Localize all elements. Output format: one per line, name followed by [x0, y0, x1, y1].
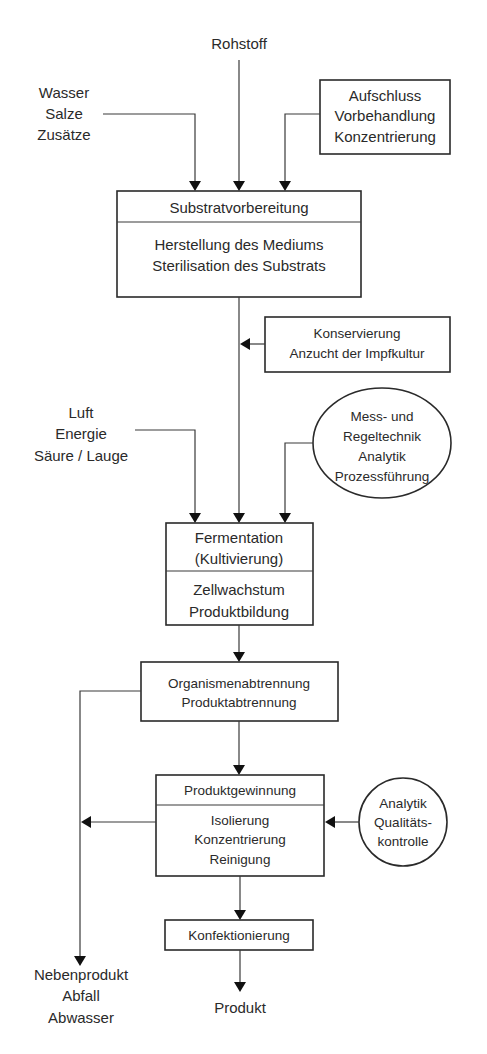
arrowhead-down-icon: [233, 652, 245, 662]
mess-connector: [285, 443, 313, 514]
arrowhead-down-icon: [189, 181, 201, 191]
svg-text:Zusätze: Zusätze: [37, 126, 90, 143]
produkt-label: Produkt: [214, 999, 267, 1016]
luft-energie-saeure-label: Luft Energie Säure / Lauge: [34, 404, 128, 464]
aufschluss-connector: [285, 114, 320, 182]
svg-text:Luft: Luft: [68, 404, 94, 421]
wasser-connector: [103, 114, 195, 182]
svg-text:Prozessführung: Prozessführung: [335, 469, 430, 484]
luft-connector: [135, 430, 195, 514]
svg-text:Aufschluss: Aufschluss: [349, 87, 422, 104]
substratvorbereitung-header: Substratvorbereitung: [169, 199, 308, 216]
svg-text:Mess- und: Mess- und: [350, 409, 413, 424]
svg-text:Energie: Energie: [55, 425, 107, 442]
arrowhead-down-icon: [279, 513, 291, 523]
svg-text:Qualitäts-: Qualitäts-: [374, 815, 432, 830]
svg-text:Abwasser: Abwasser: [48, 1009, 114, 1026]
svg-text:Salze: Salze: [45, 105, 83, 122]
bioprocess-flowchart: Rohstoff Wasser Salze Zusätze Aufschluss…: [0, 0, 487, 1054]
svg-text:Sterilisation des Substrats: Sterilisation des Substrats: [152, 257, 325, 274]
arrowhead-down-icon: [233, 181, 245, 191]
svg-text:Isolierung: Isolierung: [211, 813, 270, 828]
svg-text:(Kultivierung): (Kultivierung): [195, 550, 283, 567]
svg-text:Organismenabtrennung: Organismenabtrennung: [168, 676, 310, 691]
svg-text:Zellwachstum: Zellwachstum: [193, 581, 285, 598]
arrowhead-down-icon: [234, 910, 246, 920]
arrowhead-down-icon: [279, 181, 291, 191]
arrowhead-down-icon: [74, 956, 86, 966]
arrowhead-left-icon: [81, 816, 91, 828]
arrowhead-left-icon: [240, 338, 250, 350]
svg-text:Reinigung: Reinigung: [210, 852, 271, 867]
svg-text:Produktabtrennung: Produktabtrennung: [182, 695, 297, 710]
arrowhead-left-icon: [325, 816, 335, 828]
wasser-salze-zusaetze-label: Wasser Salze Zusätze: [37, 84, 90, 143]
arrowhead-down-icon: [234, 982, 246, 992]
svg-text:Produktbildung: Produktbildung: [189, 603, 289, 620]
svg-text:Konzentrierung: Konzentrierung: [194, 832, 286, 847]
svg-text:Konfektionierung: Konfektionierung: [188, 928, 289, 943]
svg-text:Analytik: Analytik: [358, 449, 406, 464]
svg-text:Säure / Lauge: Säure / Lauge: [34, 447, 128, 464]
arrowhead-down-icon: [233, 513, 245, 523]
svg-text:kontrolle: kontrolle: [377, 834, 428, 849]
svg-text:Analytik: Analytik: [379, 796, 427, 811]
svg-text:Konzentrierung: Konzentrierung: [334, 128, 436, 145]
svg-text:Konservierung: Konservierung: [313, 326, 400, 341]
svg-text:Vorbehandlung: Vorbehandlung: [335, 107, 436, 124]
svg-text:Wasser: Wasser: [39, 84, 89, 101]
svg-text:Nebenprodukt: Nebenprodukt: [34, 966, 129, 983]
rohstoff-label: Rohstoff: [211, 35, 267, 52]
svg-text:Anzucht der Impfkultur: Anzucht der Impfkultur: [289, 346, 425, 361]
arrowhead-down-icon: [233, 765, 245, 775]
svg-text:Herstellung des Mediums: Herstellung des Mediums: [154, 236, 323, 253]
svg-text:Produktgewinnung: Produktgewinnung: [184, 783, 296, 798]
svg-text:Regeltechnik: Regeltechnik: [343, 429, 421, 444]
arrowhead-down-icon: [189, 513, 201, 523]
svg-text:Abfall: Abfall: [62, 987, 100, 1004]
nebenprodukt-abfall-abwasser-label: Nebenprodukt Abfall Abwasser: [34, 966, 129, 1026]
svg-text:Fermentation: Fermentation: [195, 529, 283, 546]
abtrennung-box: [141, 662, 338, 721]
